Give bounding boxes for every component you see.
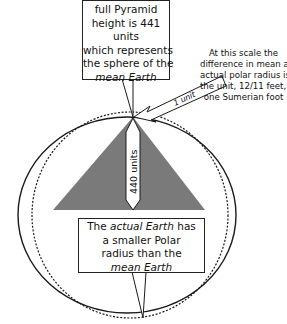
- bottom-callout-line-1: The actual Earth has: [79, 220, 204, 234]
- side-note-line: the unit, 12/11 feet, or: [200, 81, 287, 92]
- top-callout-italic-line: mean Earth: [83, 71, 169, 85]
- top-callout-line: height is 441: [83, 17, 169, 31]
- top-callout-line: the sphere of the: [83, 57, 169, 71]
- bottom-callout-box: The actual Earth has a smaller Polar rad…: [78, 218, 205, 273]
- side-note: At this scale the difference in mean and…: [200, 48, 287, 103]
- top-callout-line: units: [83, 30, 169, 44]
- height-arrow-label: 440 units: [128, 149, 139, 194]
- top-callout-pointer: [122, 79, 133, 117]
- text-prefix: The: [87, 220, 110, 232]
- top-callout-line: which represents: [83, 44, 169, 58]
- top-callout-line: full Pyramid: [83, 3, 169, 17]
- side-note-line: actual polar radius is: [200, 70, 287, 81]
- bottom-callout-line: radius than the: [79, 247, 204, 261]
- text-suffix: has: [174, 220, 196, 232]
- text-italic: actual Earth: [110, 220, 174, 232]
- top-callout-box: full Pyramid height is 441 units which r…: [82, 0, 170, 80]
- side-note-line: one Sumerian foot: [200, 92, 287, 103]
- bottom-callout-italic-line: mean Earth: [79, 261, 204, 275]
- side-note-line: At this scale the: [200, 48, 287, 59]
- bottom-callout-pointer: [132, 272, 146, 318]
- side-note-line: difference in mean and: [200, 59, 287, 70]
- bottom-callout-line: a smaller Polar: [79, 234, 204, 248]
